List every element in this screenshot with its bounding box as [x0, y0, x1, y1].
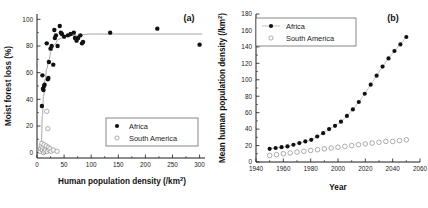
panel-b-legend-marker-africa [269, 24, 273, 28]
data-point-africa [42, 82, 46, 86]
panel-b-svg: 1940196019802000202020402060020406080100… [214, 0, 428, 208]
panel-b-y-tick-label: 120 [241, 60, 252, 67]
data-point-south-america [363, 142, 368, 147]
panel-a-x-tick-label: 300 [194, 161, 205, 168]
data-point-africa [55, 44, 59, 48]
data-point-africa [363, 92, 367, 96]
panel-b-series-africa [268, 35, 409, 151]
data-point-africa [40, 73, 44, 77]
panel-b-y-tick-label: 180 [241, 10, 252, 17]
figure-container: 050100150200250300020406080100 Moist for… [0, 0, 428, 208]
panel-b-x-tick-label: 1960 [276, 165, 291, 172]
data-point-africa [404, 35, 408, 39]
panel-a-series-south-america [38, 109, 60, 155]
panel-a-y-tick-label: 100 [22, 16, 33, 23]
data-point-south-america [377, 140, 382, 145]
data-point-south-america [397, 138, 402, 143]
panel-a-legend-marker-south-america [115, 136, 119, 140]
data-point-africa [274, 146, 278, 150]
data-point-africa [279, 145, 283, 149]
panel-b-y-axis-title-base: Mean human population density (/km [218, 19, 227, 163]
panel-a-x-axis-title-base: Human population density (/km [58, 177, 180, 186]
panel-b-population-density: 1940196019802000202020402060020406080100… [214, 0, 428, 208]
data-point-south-america [288, 151, 293, 156]
data-point-africa [54, 33, 58, 37]
panel-a-x-tick-label: 200 [140, 161, 151, 168]
panel-b-y-tick-label: 80 [245, 93, 253, 100]
data-point-africa [155, 26, 159, 30]
data-point-africa [398, 42, 402, 46]
panel-a-y-tick-label: 60 [26, 69, 34, 76]
data-point-south-america [55, 149, 59, 153]
data-point-africa [58, 24, 62, 28]
data-point-africa [386, 56, 390, 60]
data-point-africa [41, 88, 45, 92]
panel-b-x-tick-label: 2000 [331, 165, 346, 172]
panel-b-x-tick-label: 1980 [304, 165, 319, 172]
data-point-africa [46, 76, 50, 80]
data-point-south-america [45, 109, 49, 113]
panel-b-y-tick-label: 40 [245, 125, 253, 132]
data-point-africa [81, 40, 85, 44]
data-point-south-america [281, 151, 286, 156]
panel-a-x-axis-title: Human population density (/km2) [58, 176, 186, 186]
data-point-south-america [315, 147, 320, 152]
data-point-africa [327, 127, 331, 131]
panel-a-y-tick-label: 40 [26, 96, 34, 103]
panel-a-x-tick-label: 50 [61, 161, 69, 168]
data-point-africa [52, 28, 56, 32]
panel-b-y-tick-label: 140 [241, 43, 252, 50]
data-point-africa [351, 107, 355, 111]
panel-a-x-tick-label: 150 [113, 161, 124, 168]
data-point-africa [78, 33, 82, 37]
panel-b-y-tick-label: 160 [241, 27, 252, 34]
data-point-south-america [295, 150, 300, 155]
panel-b-y-axis-title-tail: ) [218, 13, 227, 16]
data-point-south-america [370, 141, 375, 146]
panel-a-y-tick-label: 20 [26, 122, 34, 129]
panel-a-x-tick-label: 0 [35, 161, 39, 168]
data-point-africa [45, 41, 49, 45]
data-point-south-america [329, 146, 334, 151]
panel-a-x-axis-title-tail: ) [183, 177, 186, 186]
data-point-south-america [384, 139, 389, 144]
panel-a-x-tick-label: 100 [86, 161, 97, 168]
data-point-africa [291, 143, 295, 147]
panel-b-legend: Africa South America [256, 18, 356, 46]
data-point-africa [375, 74, 379, 78]
panel-b-legend-label-south-america: South America [286, 34, 335, 43]
panel-b-y-axis-title: Mean human population density (/km2) [217, 13, 227, 163]
data-point-africa [49, 44, 53, 48]
data-point-africa [315, 134, 319, 138]
panel-b-legend-marker-south-america [269, 36, 273, 40]
panel-b-y-tick-label: 0 [248, 158, 252, 165]
panel-a-moist-forest-loss: 050100150200250300020406080100 Moist for… [0, 0, 214, 208]
data-point-africa [339, 120, 343, 124]
data-point-south-america [356, 142, 361, 147]
panel-a-legend: Africa South America [106, 118, 198, 146]
data-point-south-america [308, 148, 313, 153]
panel-a-label: (a) [184, 13, 195, 23]
panel-b-x-tick-label: 2040 [386, 165, 401, 172]
panel-a-legend-label-south-america: South America [129, 134, 178, 143]
data-point-africa [47, 60, 51, 64]
data-point-africa [72, 30, 76, 34]
panel-b-y-tick-label: 60 [245, 109, 253, 116]
panel-b-x-tick-label: 2060 [413, 165, 428, 172]
panel-b-x-tick-label: 2020 [358, 165, 373, 172]
panel-a-legend-label-africa: Africa [129, 122, 149, 131]
data-point-south-america [390, 139, 395, 144]
panel-a-y-tick-label: 0 [29, 149, 33, 156]
panel-a-x-tick-label: 250 [167, 161, 178, 168]
panel-a-y-tick-label: 80 [26, 42, 34, 49]
data-point-africa [297, 141, 301, 145]
data-point-africa [345, 114, 349, 118]
panel-a-legend-marker-africa [115, 124, 119, 128]
data-point-africa [197, 42, 201, 46]
panel-b-legend-label-africa: Africa [286, 22, 306, 31]
data-point-south-america [267, 153, 272, 158]
data-point-africa [369, 83, 373, 87]
panel-b-africa-polyline [270, 37, 407, 149]
data-point-africa [357, 100, 361, 104]
panel-a-y-axis-title: Moist forest loss (%) [4, 46, 13, 126]
